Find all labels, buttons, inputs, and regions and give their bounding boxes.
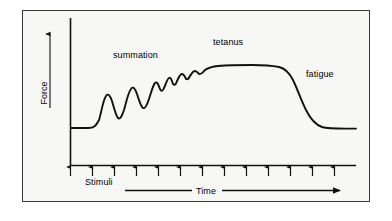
stimuli-arrow-group	[71, 167, 335, 176]
x-axis-label: Time	[196, 186, 216, 196]
figure-container: summation tetanus fatigue Stimuli Time F…	[0, 0, 392, 221]
annotation-fatigue: fatigue	[306, 69, 334, 79]
annotation-tetanus: tetanus	[213, 37, 243, 47]
y-axis-label: Force	[39, 73, 49, 113]
annotation-summation: summation	[113, 50, 158, 60]
stimuli-axis-label: Stimuli	[85, 177, 113, 187]
